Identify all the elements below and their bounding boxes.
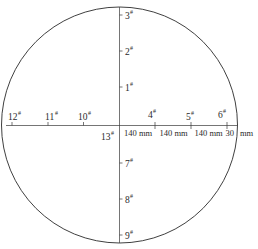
dimension-4-unit: mm [240,128,254,138]
point-12: 12 # [8,110,21,122]
svg-text:11: 11 [45,112,54,122]
svg-text:13: 13 [101,132,111,142]
point-13: 13 # [101,130,114,143]
vertical-ticks [120,15,123,235]
svg-text:#: # [191,110,194,116]
svg-text:#: # [130,193,133,199]
point-10: 10 # [78,110,91,122]
svg-text:#: # [130,229,133,235]
point-7: 7 # [125,157,133,169]
point-11: 11 # [45,110,58,122]
svg-text:#: # [153,108,156,114]
point-5: 5 # [186,110,194,122]
svg-text:10: 10 [78,112,88,122]
svg-text:#: # [130,9,133,15]
svg-text:#: # [111,130,114,136]
svg-text:#: # [223,108,226,114]
svg-text:#: # [18,110,21,116]
point-6: 6 # [218,108,226,120]
svg-text:#: # [130,157,133,163]
point-4: 4 # [148,108,156,120]
dimension-4-value: 30 [226,128,235,138]
measurement-point-diagram: 3 # 2 # 1 # 7 # 8 # 9 # 12 # 11 # 10 # 4… [0,0,258,249]
point-1: 1 # [125,81,133,93]
svg-text:#: # [130,81,133,87]
svg-text:#: # [130,45,133,51]
svg-text:#: # [88,110,91,116]
point-2: 2 # [125,45,133,57]
svg-text:#: # [55,110,58,116]
dimension-1: 140 mm [124,128,152,138]
point-3: 3 # [125,9,133,21]
point-8: 8 # [125,193,133,205]
point-9: 9 # [125,229,133,241]
svg-text:12: 12 [8,112,18,122]
dimension-3: 140 mm [195,128,223,138]
dimension-2: 140 mm [160,128,188,138]
